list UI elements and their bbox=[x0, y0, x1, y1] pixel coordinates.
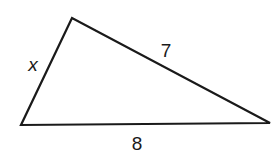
side-label-right: 7 bbox=[161, 40, 172, 61]
triangle-diagram: x 7 8 bbox=[0, 0, 274, 151]
side-label-bottom: 8 bbox=[132, 133, 143, 151]
triangle bbox=[21, 18, 270, 125]
side-label-left: x bbox=[27, 54, 39, 75]
